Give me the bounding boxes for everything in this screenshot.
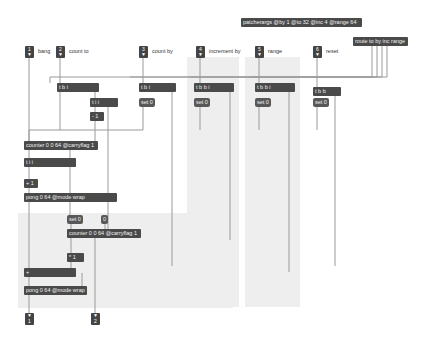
arrow-down-icon: ▼ [196,52,205,57]
inlet-2-label: count to [69,48,89,54]
set0-inc-message[interactable]: set 0 [194,98,210,107]
t-i-i-object[interactable]: t i i [90,98,118,107]
set0-reset-message[interactable]: set 0 [313,98,329,107]
pong-2-object[interactable]: pong 0 64 @mode wrap [24,286,87,295]
plus-1-object[interactable]: + 1 [24,179,38,188]
inlet-4-label: increment by [209,48,241,54]
counter-2-object[interactable]: counter 0 0 64 @carryflag 1 [67,229,141,238]
inlet-1-label: bang [38,48,50,54]
t-b-b-i-1-object[interactable]: t b b i [194,83,234,92]
outlet-2[interactable]: ▼2 [91,313,100,325]
t-b-i-2-object[interactable]: t b i [139,83,176,92]
inlet-5-label: range [268,48,282,54]
arrow-down-icon: ▼ [255,52,264,57]
t-b-b-object[interactable]: t b b [313,87,341,96]
plus-2-object[interactable]: + [24,268,76,277]
times-1-object[interactable]: * 1 [67,253,84,262]
set0-lower-message[interactable]: set 0 [67,215,83,224]
inlet-2[interactable]: 2▼ [56,46,65,58]
outlet-number: 1 [28,318,31,324]
route-object[interactable]: route to by inc range [353,37,408,46]
t-b-b-i-2-object[interactable]: t b b i [255,83,295,92]
inlet-5[interactable]: 5▼ [255,46,264,58]
minus-1-object[interactable]: - 1 [90,112,104,121]
inlet-6[interactable]: 6▼ [313,46,322,58]
patcherargs-object[interactable]: patcherargs @by 1 @to 32 @inc 4 @range 6… [241,18,362,27]
patcher-canvas[interactable]: 1▼bang2▼count to3▼count by4▼increment by… [0,0,430,344]
counter-1-object[interactable]: counter 0 0 64 @carryflag 1 [24,141,98,150]
inlet-3[interactable]: 3▼ [139,46,148,58]
t-i-i-2-object[interactable]: t i i [24,158,76,167]
pong-1-object[interactable]: pong 0 64 @mode wrap [24,193,117,202]
inlet-3-label: count by [152,48,173,54]
inlet-4[interactable]: 4▼ [196,46,205,58]
inlet-6-label: reset [326,48,338,54]
zero-msg-message[interactable]: 0 [101,215,108,224]
t-b-i-1-object[interactable]: t b i [57,83,99,92]
arrow-down-icon: ▼ [25,52,34,57]
outlet-number: 2 [94,318,97,324]
arrow-down-icon: ▼ [139,52,148,57]
outlet-1[interactable]: ▼1 [25,313,34,325]
arrow-down-icon: ▼ [313,52,322,57]
set0-range-message[interactable]: set 0 [255,98,271,107]
set0-count-by-message[interactable]: set 0 [139,98,155,107]
inlet-1[interactable]: 1▼ [25,46,34,58]
arrow-down-icon: ▼ [56,52,65,57]
